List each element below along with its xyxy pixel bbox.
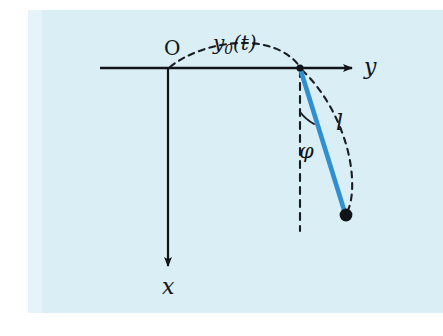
y0t-subscript: 0 bbox=[224, 41, 233, 57]
x-axis-label: x bbox=[162, 276, 174, 298]
angle-phi-label: φ bbox=[299, 141, 314, 162]
y0t-base: y bbox=[213, 31, 224, 55]
y0t-argument: (t) bbox=[233, 31, 257, 55]
pivot-point bbox=[296, 64, 303, 71]
rod-length-label: l bbox=[336, 112, 343, 134]
origin-label: O bbox=[164, 38, 180, 58]
y-axis-label: y bbox=[364, 56, 376, 78]
panel-left-fade bbox=[28, 10, 42, 313]
pendulum-figure: O y0(t) y x φ l bbox=[0, 0, 443, 336]
pendulum-bob bbox=[340, 209, 353, 222]
suspension-coordinate-label: y0(t) bbox=[213, 33, 257, 56]
